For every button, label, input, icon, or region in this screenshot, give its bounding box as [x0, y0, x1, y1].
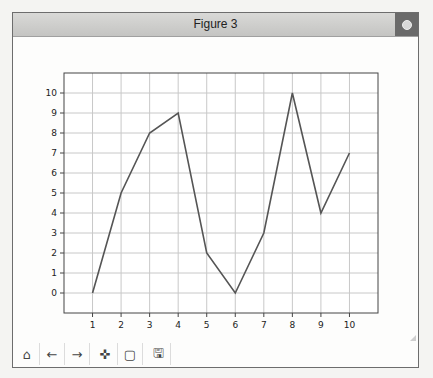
x-tick-label: 6 [232, 320, 238, 330]
y-tick-label: 0 [51, 288, 57, 298]
x-tick-label: 8 [289, 320, 295, 330]
x-tick-label: 4 [175, 320, 181, 330]
title-bar[interactable]: Figure 3 [13, 13, 418, 37]
figure-window: Figure 3 12345678910012345678910 ⌂←→✜▢🖫 [12, 12, 419, 368]
pan-button[interactable]: ✜ [93, 343, 118, 365]
y-tick-label: 5 [51, 188, 57, 198]
close-button[interactable] [395, 13, 418, 36]
y-tick-label: 6 [51, 168, 57, 178]
y-tick-label: 7 [51, 148, 57, 158]
navigation-toolbar: ⌂←→✜▢🖫 [15, 343, 171, 365]
x-tick-label: 2 [118, 320, 124, 330]
x-tick-label: 9 [318, 320, 324, 330]
y-tick-label: 2 [51, 248, 57, 258]
zoom-button[interactable]: ▢ [118, 343, 143, 365]
resize-grip[interactable] [410, 335, 416, 341]
save-icon: 🖫 [153, 343, 164, 365]
forward-button[interactable]: → [65, 343, 90, 365]
back-button[interactable]: ← [40, 343, 65, 365]
x-tick-label: 1 [90, 320, 96, 330]
home-icon: ⌂ [23, 347, 31, 362]
y-tick-label: 1 [51, 268, 57, 278]
y-tick-label: 10 [46, 88, 58, 98]
zoom-rect-icon: ▢ [124, 347, 136, 362]
x-tick-label: 3 [147, 320, 153, 330]
arrow-right-icon: → [72, 347, 83, 362]
x-tick-label: 5 [204, 320, 210, 330]
x-tick-label: 7 [261, 320, 267, 330]
save-button[interactable]: 🖫 [146, 343, 171, 365]
y-tick-label: 8 [51, 128, 57, 138]
home-button[interactable]: ⌂ [15, 343, 40, 365]
x-tick-label: 10 [344, 320, 356, 330]
window-title: Figure 3 [13, 17, 418, 31]
y-tick-label: 4 [51, 208, 57, 218]
power-icon [402, 20, 412, 30]
y-tick-label: 3 [51, 228, 57, 238]
y-tick-label: 9 [51, 108, 57, 118]
line-chart: 12345678910012345678910 [13, 36, 418, 336]
move-icon: ✜ [100, 347, 111, 362]
arrow-left-icon: ← [47, 347, 58, 362]
